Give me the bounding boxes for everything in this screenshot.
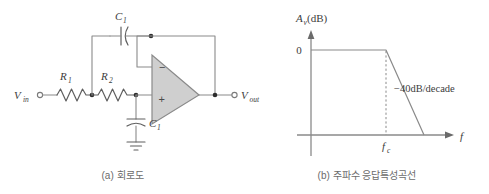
r2-label-subscript: 2 xyxy=(109,76,113,85)
chart-ylabel-main: A xyxy=(295,12,303,24)
c1-shunt-label: C xyxy=(149,117,157,129)
c1-feedback-label: C xyxy=(115,10,123,22)
chart-xtick-fc-subscript: c xyxy=(387,146,391,155)
vin-label-subscript: in xyxy=(23,95,29,104)
c1-feedback-label-subscript: 1 xyxy=(123,16,127,25)
r1-label: R xyxy=(59,70,67,82)
resistor-r1 xyxy=(57,89,92,101)
chart-y-axis-arrowhead xyxy=(308,30,315,39)
caption-panel-a: (a) 회로도 xyxy=(0,167,245,182)
chart-xlabel: f xyxy=(460,130,465,142)
chart-slope-annotation: −40dB/decade xyxy=(394,83,455,94)
c1-shunt-label-subscript: 1 xyxy=(157,123,161,132)
vout-label-subscript: out xyxy=(250,95,261,104)
wire-feedback-to-opamp-minus xyxy=(137,36,152,67)
figure-svg: − + V in V out R 1 R 2 C 1 C 1 xyxy=(0,0,489,194)
chart-ylabel-unit: (dB) xyxy=(307,12,328,25)
resistor-r2 xyxy=(92,89,136,101)
r1-label-subscript: 1 xyxy=(68,76,72,85)
circuit-diagram: − + V in V out R 1 R 2 C 1 C 1 xyxy=(14,10,260,150)
caption-panel-b: (b) 주파수 응답특성곡선 xyxy=(245,167,489,182)
figure-root: − + V in V out R 1 R 2 C 1 C 1 xyxy=(0,0,489,194)
chart-x-axis-arrowhead xyxy=(445,132,454,139)
input-terminal-node xyxy=(37,92,42,97)
chart-ytick-0: 0 xyxy=(296,44,302,56)
vout-label: V xyxy=(241,89,249,101)
opamp-minus-sign: − xyxy=(159,61,165,73)
wire-r1r2-to-cap-feedback xyxy=(92,36,110,95)
frequency-response-chart: 0 A v (dB) f f c −40dB/decade xyxy=(295,12,465,156)
vin-label: V xyxy=(14,89,22,101)
node-output-junction xyxy=(213,93,218,98)
output-terminal-node xyxy=(232,92,237,97)
r2-label: R xyxy=(100,70,108,82)
opamp-plus-sign: + xyxy=(159,93,165,105)
